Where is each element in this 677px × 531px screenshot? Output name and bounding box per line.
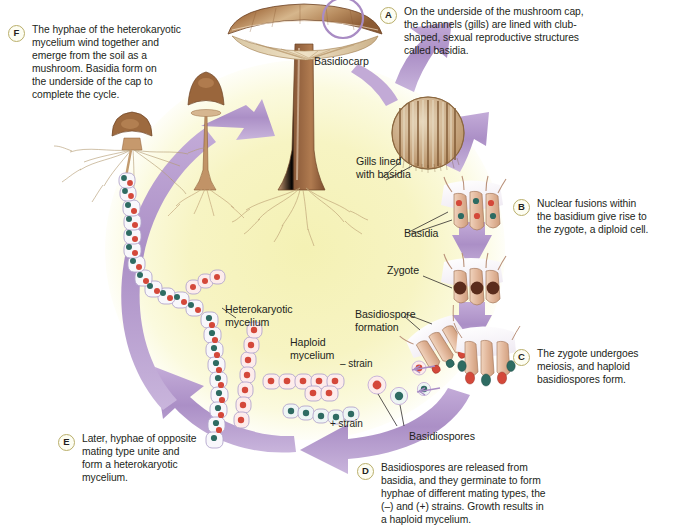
- young-mushroom-ring: [191, 110, 221, 117]
- callout-f-text: The hyphae of the heterokaryotic myceliu…: [32, 24, 181, 102]
- label-basidiocarp: Basidiocarp: [314, 55, 369, 68]
- callout-d-badge: D: [357, 463, 374, 480]
- callout-e: E Later, hyphae of opposite mating type …: [58, 433, 258, 485]
- callout-e-badge: E: [58, 434, 75, 451]
- spore-teal-large: [390, 387, 407, 404]
- label-minus-strain: – strain: [340, 358, 372, 370]
- callout-a-text: On the underside of the mushroom cap, th…: [404, 6, 584, 58]
- callout-f-badge: F: [8, 25, 25, 42]
- spore-red-large: [368, 376, 386, 394]
- label-basidiospores: Basidiospores: [409, 430, 475, 443]
- label-gills-lined-with-basidia: Gills lined with basidia: [356, 155, 411, 180]
- callout-e-text: Later, hyphae of opposite mating type un…: [82, 433, 196, 485]
- label-plus-strain: + strain: [330, 418, 363, 430]
- callout-c: C The zygote undergoes meiosis, and hapl…: [513, 348, 668, 387]
- callout-b-text: Nuclear fusions within the basidium give…: [537, 198, 648, 237]
- label-zygote: Zygote: [387, 264, 419, 277]
- label-haploid-mycelium: Haploid mycelium: [290, 336, 334, 361]
- callout-d: D Basidiospores are released from basidi…: [357, 462, 657, 527]
- mushroom-life-cycle-figure: F The hyphae of the heterokaryotic mycel…: [0, 0, 677, 531]
- zygote-nuclei: [454, 282, 500, 295]
- callout-d-text: Basidiospores are released from basidia,…: [381, 462, 546, 527]
- callout-b: B Nuclear fusions within the basidium gi…: [513, 198, 673, 237]
- label-basidia: Basidia: [404, 227, 438, 240]
- callout-c-badge: C: [513, 349, 530, 366]
- label-heterokaryotic-mycelium: Heterokaryotic mycelium: [225, 303, 293, 328]
- callout-f: F The hyphae of the heterokaryotic mycel…: [8, 24, 208, 102]
- button-mushroom-base: [122, 138, 142, 150]
- basidium-cell: [454, 191, 500, 230]
- callout-b-badge: B: [513, 199, 530, 216]
- label-basidiospore-formation: Basidiospore formation: [355, 308, 416, 333]
- callout-a-badge: A: [380, 7, 397, 24]
- callout-c-text: The zygote undergoes meiosis, and haploi…: [537, 348, 638, 387]
- callout-a: A On the underside of the mushroom cap, …: [380, 6, 660, 58]
